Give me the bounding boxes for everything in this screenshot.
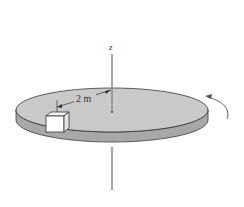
axis-center-point [111, 111, 113, 113]
distance-label: 2 m [76, 93, 92, 104]
rotation-arrow-icon [208, 97, 228, 119]
rotation-arrowhead-icon [205, 94, 212, 99]
box-side [64, 112, 69, 132]
z-axis-label: z [108, 42, 113, 52]
rotating-disc-diagram: z 2 m [0, 0, 244, 207]
box-front [46, 116, 64, 132]
